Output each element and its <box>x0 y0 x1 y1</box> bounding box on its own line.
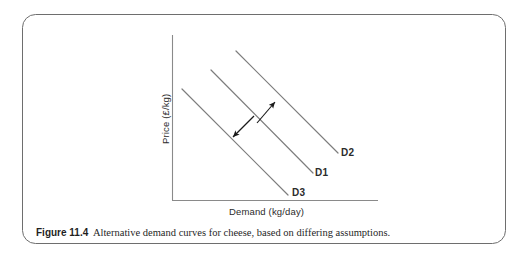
curve-label-d1: D1 <box>315 167 328 178</box>
y-axis-label: Price (£/kg) <box>160 94 171 144</box>
x-axis-label: Demand (kg/day) <box>229 206 304 217</box>
figure-caption-number: Figure 11.4 <box>36 227 88 238</box>
figure-container: Price (£/kg) Demand (kg/day) D2 D1 D3 Fi… <box>0 0 523 257</box>
figure-caption-body: Alternative demand curves for cheese, ba… <box>93 227 390 238</box>
curve-label-d3: D3 <box>292 187 305 198</box>
curve-label-d2: D2 <box>341 147 354 158</box>
figure-caption: Figure 11.4 Alternative demand curves fo… <box>36 226 486 239</box>
figure-graphic <box>0 0 523 257</box>
